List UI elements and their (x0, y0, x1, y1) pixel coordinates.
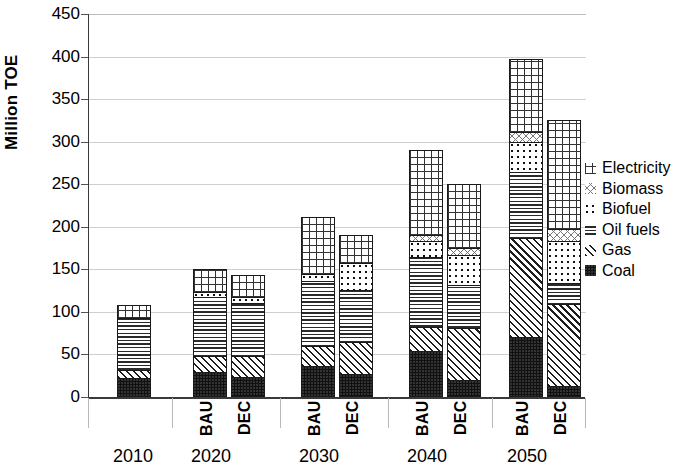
bar-2030-bau[interactable] (301, 217, 335, 397)
bar-segment-electricity (232, 276, 264, 298)
bar-segment-coal (510, 338, 542, 396)
bar-segment-electricity (340, 236, 372, 264)
bar-segment-electricity (194, 270, 226, 293)
legend-label: Oil fuels (602, 222, 660, 238)
bar-2030-dec[interactable] (339, 235, 373, 397)
bar-segment-coal (410, 352, 442, 396)
legend-swatch-icon (585, 204, 596, 215)
y-axis-tick-label: 50 (30, 345, 80, 362)
x-axis-scenario-label: DEC (344, 400, 364, 452)
legend-label: Biofuel (602, 201, 651, 217)
bar-2040-bau[interactable] (409, 150, 443, 397)
y-axis-tick-mark (81, 99, 88, 100)
y-axis-tick-label: 450 (30, 5, 80, 22)
x-axis-scenario-label: DEC (452, 400, 472, 452)
bar-segment-coal (448, 381, 480, 396)
bar-segment-gas (194, 357, 226, 373)
bar-segment-biofuel (340, 264, 372, 291)
bar-2020-dec[interactable] (231, 275, 265, 397)
bar-segment-oil-fuels (194, 298, 226, 357)
y-axis-tick-mark (81, 269, 88, 270)
x-axis-scenario-label: BAU (514, 400, 534, 452)
bar-segment-coal (548, 387, 580, 396)
bar-2050-dec[interactable] (547, 120, 581, 397)
bar-2050-bau[interactable] (509, 59, 543, 397)
bar-segment-coal (232, 378, 264, 396)
legend-item-biomass[interactable]: Biomass (585, 179, 697, 200)
bar-series-container (89, 14, 586, 398)
x-axis-label-2010: 2010 (93, 446, 173, 467)
x-axis-group-separator (492, 398, 493, 428)
bar-segment-oil-fuels (340, 291, 372, 343)
y-axis-tick-mark (81, 57, 88, 58)
bar-segment-biofuel (448, 256, 480, 286)
bar-segment-gas (302, 347, 334, 366)
x-axis: 20102020203020402050BAUDECBAUDECBAUDECBA… (88, 398, 585, 468)
bar-segment-oil-fuels (448, 286, 480, 329)
bar-segment-oil-fuels (302, 282, 334, 347)
legend-swatch-icon (585, 183, 596, 194)
y-axis-tick-label: 250 (30, 175, 80, 192)
stacked-bar-chart: Million TOE 050100150200250300350400450 … (0, 0, 697, 468)
legend-item-gas[interactable]: Gas (585, 240, 697, 261)
bar-segment-gas (340, 343, 372, 375)
plot-area (88, 14, 586, 398)
y-axis-tick-mark (81, 354, 88, 355)
x-axis-scenario-label: BAU (198, 400, 218, 452)
legend-item-coal[interactable]: Coal (585, 261, 697, 282)
y-axis-tick-label: 100 (30, 303, 80, 320)
bar-2010[interactable] (117, 305, 151, 397)
legend-swatch-icon (585, 224, 596, 235)
x-axis-scenario-label: DEC (552, 400, 572, 452)
y-axis-tick-mark (81, 312, 88, 313)
bar-segment-oil-fuels (548, 284, 580, 304)
x-axis-group-separator (172, 398, 173, 428)
bar-segment-gas (448, 329, 480, 381)
bar-segment-gas (232, 357, 264, 379)
bar-segment-biomass (510, 133, 542, 143)
y-axis-tick-label: 350 (30, 90, 80, 107)
bar-segment-electricity (410, 151, 442, 236)
chart-legend: ElectricityBiomassBiofuelOil fuelsGasCoa… (585, 158, 697, 281)
bar-segment-electricity (118, 306, 150, 319)
bar-segment-electricity (302, 218, 334, 274)
y-axis-tick-label: 200 (30, 218, 80, 235)
bar-segment-gas (118, 371, 150, 379)
y-axis-tick-mark (81, 397, 88, 398)
bar-segment-coal (118, 379, 150, 396)
bar-segment-coal (194, 373, 226, 396)
y-axis-title: Million TOE (2, 55, 22, 150)
y-axis-tick-label: 300 (30, 133, 80, 150)
x-axis-scenario-label: DEC (236, 400, 256, 452)
legend-item-oil-fuels[interactable]: Oil fuels (585, 220, 697, 241)
legend-item-biofuel[interactable]: Biofuel (585, 199, 697, 220)
legend-swatch-icon (585, 245, 596, 256)
bar-segment-coal (340, 375, 372, 396)
bar-2040-dec[interactable] (447, 184, 481, 397)
y-axis-tick-label: 400 (30, 48, 80, 65)
bar-segment-electricity (548, 121, 580, 230)
y-axis-tick-mark (81, 184, 88, 185)
x-axis-group-separator (88, 398, 89, 428)
legend-label: Electricity (602, 160, 670, 176)
bar-segment-electricity (510, 60, 542, 133)
bar-segment-gas (410, 328, 442, 352)
bar-segment-oil-fuels (232, 304, 264, 357)
y-axis-tick-label: 0 (30, 388, 80, 405)
legend-item-electricity[interactable]: Electricity (585, 158, 697, 179)
bar-segment-coal (302, 367, 334, 396)
bar-segment-oil-fuels (118, 319, 150, 371)
bar-segment-oil-fuels (410, 258, 442, 328)
x-axis-group-separator (280, 398, 281, 428)
legend-label: Gas (602, 242, 631, 258)
y-axis-tick-mark (81, 227, 88, 228)
x-axis-group-separator (585, 398, 586, 428)
bar-segment-gas (510, 239, 542, 338)
bar-segment-electricity (448, 185, 480, 249)
bar-2020-bau[interactable] (193, 269, 227, 397)
bar-segment-biofuel (510, 143, 542, 173)
bar-segment-biomass (448, 249, 480, 256)
bar-segment-biofuel (302, 275, 334, 283)
x-axis-group-separator (388, 398, 389, 428)
x-axis-scenario-label: BAU (306, 400, 326, 452)
